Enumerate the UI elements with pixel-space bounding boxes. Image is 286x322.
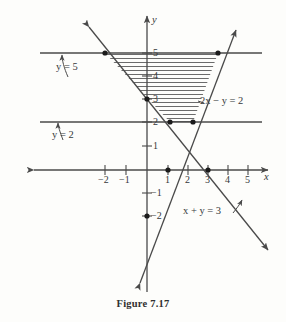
x-tick-label-neg1: −1	[119, 175, 130, 185]
y-tick-label-3: 3	[153, 94, 158, 104]
point-neg2-5	[102, 50, 107, 55]
y-tick-label-neg1: −1	[151, 188, 162, 198]
point-0-3	[144, 96, 149, 101]
line-x-plus-y-equals-3	[89, 27, 268, 250]
y-axis-label: y	[152, 15, 157, 26]
point-3p5-5	[215, 50, 220, 55]
label-line-y-equals-2: y = 2	[52, 130, 74, 141]
point-0-neg2	[144, 213, 149, 218]
label-line-y-equals-5: y = 5	[56, 62, 78, 73]
y-axis	[142, 16, 152, 292]
label-line-2x-minus-y: 2x − y = 2	[200, 96, 243, 107]
line-2x-minus-y-equals-2	[140, 30, 236, 283]
x-axis	[34, 165, 268, 175]
y-tick-label-4: 4	[153, 71, 158, 81]
point-2-2	[190, 119, 195, 124]
point-3-0	[205, 167, 210, 172]
point-1-2	[167, 119, 172, 124]
x-tick-label-4: 4	[225, 175, 230, 185]
y-tick-label-2: 2	[153, 117, 158, 127]
figure-caption: Figure 7.17	[0, 298, 286, 309]
x-tick-label-2: 2	[185, 175, 190, 185]
x-tick-label-1: 1	[165, 175, 170, 185]
y-tick-label-5: 5	[153, 48, 158, 58]
label-line-x-plus-y: x + y = 3	[183, 206, 221, 217]
x-tick-label-3: 3	[205, 175, 210, 185]
coordinate-graph	[0, 0, 286, 322]
x-tick-label-neg2: −2	[98, 175, 109, 185]
x-tick-label-5: 5	[245, 175, 250, 185]
y-tick-label-neg2: −2	[151, 211, 162, 221]
figure-container: −2 −1 1 2 3 4 5 5 4 3 2 1 −1 −2 x y y = …	[0, 0, 286, 322]
point-1-0	[165, 167, 170, 172]
y-tick-label-1: 1	[153, 141, 158, 151]
x-axis-label: x	[264, 172, 269, 183]
